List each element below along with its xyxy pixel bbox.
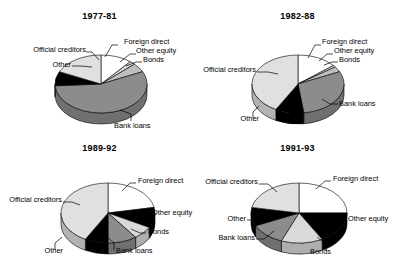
label-other-1: Other [26, 61, 71, 69]
label-other-equity-4: Other equity [348, 215, 388, 223]
pie-chart-figure: 1977-81 Foreign direct Other equity Bond… [0, 0, 397, 263]
label-bonds-1: Bonds [143, 56, 164, 64]
pie-4 [198, 131, 397, 263]
label-bank-loans-4: Bank loans [200, 234, 255, 242]
label-official-creditors-4: Official creditors [192, 178, 258, 186]
label-foreign-direct-4: Foreign direct [333, 175, 378, 183]
chart-panel-1991-93: 1991-93 Foreign direct Other equity Bond… [198, 131, 397, 263]
label-bonds-2: Bonds [339, 56, 360, 64]
label-official-creditors-2: Official creditors [194, 66, 256, 74]
chart-panel-1977-81: 1977-81 Foreign direct Other equity Bond… [0, 0, 199, 132]
label-bank-loans-2: Bank loans [339, 100, 376, 108]
label-official-creditors-1: Official creditors [26, 46, 86, 54]
chart-panel-1982-88: 1982-88 Foreign direct Other equity Bond… [198, 0, 397, 132]
label-foreign-direct-2: Foreign direct [322, 38, 367, 46]
label-other-equity-3: Other equity [152, 209, 192, 217]
label-other-equity-2: Other equity [334, 47, 374, 55]
label-other-4: Other [206, 215, 246, 223]
pie-4-svg [198, 131, 397, 263]
label-official-creditors-3: Official creditors [0, 196, 62, 204]
label-bonds-3: Bonds [148, 228, 169, 236]
label-other-equity-1: Other equity [136, 47, 176, 55]
label-foreign-direct-1: Foreign direct [124, 38, 169, 46]
chart-panel-1989-92: 1989-92 Foreign direct Other equity Bond… [0, 131, 199, 263]
label-bonds-4: Bonds [310, 248, 331, 256]
label-bank-loans-3: Bank loans [116, 247, 153, 255]
label-other-2: Other [214, 115, 259, 123]
label-bank-loans-1: Bank loans [114, 122, 151, 130]
label-other-3: Other [18, 247, 63, 255]
label-foreign-direct-3: Foreign direct [138, 177, 183, 185]
